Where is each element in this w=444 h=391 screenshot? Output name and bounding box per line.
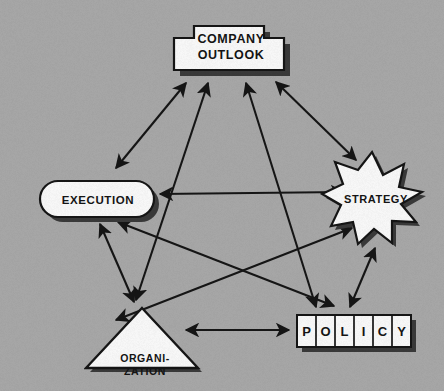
organization-shape <box>86 308 198 368</box>
node-strategy[interactable]: STRATEGY <box>320 148 432 252</box>
node-company-outlook[interactable]: COMPANY OUTLOOK <box>168 18 294 78</box>
diagram-canvas: COMPANY OUTLOOK EXECUTION STRATE <box>0 0 444 391</box>
node-execution[interactable]: EXECUTION <box>33 176 163 224</box>
execution-shape <box>40 181 154 217</box>
strategy-shape <box>322 152 422 244</box>
node-policy[interactable]: P O L I C Y <box>295 313 417 356</box>
node-organization[interactable]: ORGANI- ZATION <box>84 302 206 378</box>
